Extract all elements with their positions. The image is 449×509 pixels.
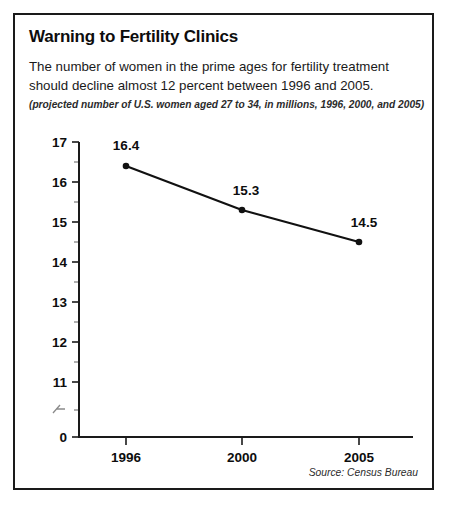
y-tick-label: 16 bbox=[52, 175, 68, 190]
data-point-marker bbox=[123, 163, 130, 170]
y-tick-label: 15 bbox=[52, 215, 68, 230]
figure-frame: Warning to Fertility Clinics The number … bbox=[13, 13, 434, 490]
source-note: Source: Census Bureau bbox=[309, 467, 418, 478]
data-series-line bbox=[126, 166, 359, 242]
y-tick-label: 17 bbox=[52, 135, 67, 150]
data-point-label: 15.3 bbox=[233, 183, 260, 198]
data-point-marker bbox=[239, 207, 246, 214]
y-tick-label: 11 bbox=[53, 375, 68, 390]
data-point-label: 14.5 bbox=[351, 215, 378, 230]
x-tick-label: 2005 bbox=[344, 450, 375, 465]
axis-break-icon bbox=[53, 405, 65, 413]
x-tick-label: 2000 bbox=[227, 450, 257, 465]
line-chart: 17 16 15 14 13 12 11 0 1996 2000 2005 bbox=[15, 15, 432, 488]
y-tick-label: 14 bbox=[52, 255, 68, 270]
data-point-marker bbox=[356, 239, 363, 246]
y-tick-label: 13 bbox=[52, 295, 68, 310]
y-tick-label: 0 bbox=[59, 430, 67, 445]
x-axis-ticks bbox=[126, 437, 359, 445]
y-axis-ticks bbox=[72, 142, 79, 437]
y-tick-label: 12 bbox=[52, 335, 67, 350]
data-point-label: 16.4 bbox=[113, 138, 140, 153]
x-tick-label: 1996 bbox=[111, 450, 142, 465]
